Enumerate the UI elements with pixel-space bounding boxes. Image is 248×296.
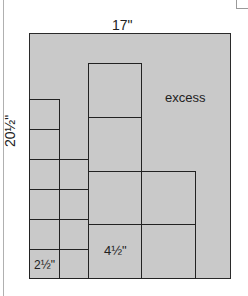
large-square [88, 117, 142, 172]
small-square-size-label: 2½" [34, 258, 55, 272]
left-edge-line [3, 0, 4, 296]
large-square-size-label: 4½" [104, 243, 127, 258]
small-square [59, 219, 89, 250]
small-square [29, 129, 60, 160]
small-square [59, 159, 89, 190]
height-dimension-label: 20½" [2, 115, 18, 147]
width-dimension-label: 17" [112, 17, 133, 33]
small-square [29, 99, 60, 130]
corner-box [236, 0, 248, 9]
large-square [88, 171, 142, 225]
large-square [141, 224, 196, 279]
small-square [29, 159, 60, 190]
excess-label: excess [165, 90, 205, 105]
small-square [59, 249, 89, 279]
small-square [59, 189, 89, 220]
small-square [29, 189, 60, 220]
small-square [29, 219, 60, 250]
large-square [88, 63, 142, 118]
large-square [141, 171, 196, 225]
